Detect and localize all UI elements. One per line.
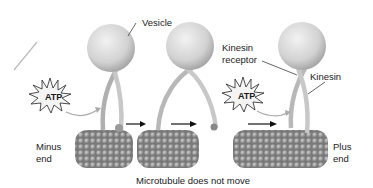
minus-end-label-line1: Minus xyxy=(36,141,61,152)
stage-1 xyxy=(87,24,135,132)
kinesin-receptor-label-line1: Kinesin xyxy=(222,42,253,53)
kinesin-receptor-label-line2: receptor xyxy=(222,54,257,65)
atp-label-2: ATP xyxy=(238,91,255,102)
decorative-line xyxy=(14,42,37,70)
caption: Microtubule does not move xyxy=(136,175,250,186)
movement-arrows xyxy=(126,121,277,127)
atp-label-1: ATP xyxy=(45,92,62,103)
vesicle-1 xyxy=(87,24,135,72)
stage-2 xyxy=(158,22,218,131)
minus-end-label-line2: end xyxy=(36,153,52,164)
kinesin-label: Kinesin xyxy=(310,71,341,82)
plus-end-label-line2: end xyxy=(333,153,349,164)
microtubule xyxy=(75,130,328,168)
vesicle-label: Vesicle xyxy=(142,17,172,28)
plus-end-label-line1: Plus xyxy=(333,141,351,152)
vesicle-2 xyxy=(166,22,214,70)
vesicle-3 xyxy=(278,22,326,70)
